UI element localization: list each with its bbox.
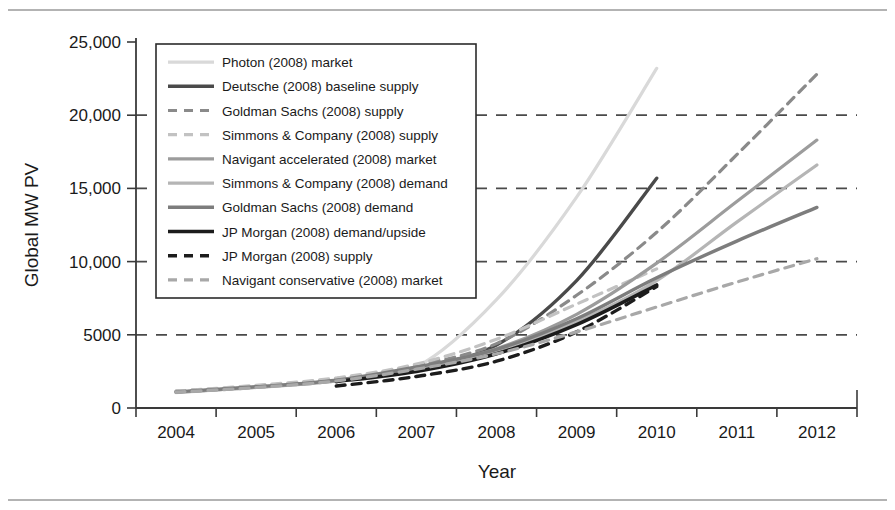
x-tick-label-2012: 2012: [798, 423, 836, 442]
x-tick-label-2007: 2007: [397, 423, 435, 442]
legend-label-2: Goldman Sachs (2008) supply: [222, 104, 404, 119]
y-tick-label-10000: 10,000: [69, 253, 121, 272]
x-tick-label-2004: 2004: [157, 423, 195, 442]
chart-legend: Photon (2008) marketDeutsche (2008) base…: [156, 44, 476, 298]
line-chart: 0500010,00015,00020,00025,00020042005200…: [0, 0, 895, 510]
legend-label-3: Simmons & Company (2008) supply: [222, 128, 438, 143]
x-axis-title: Year: [478, 461, 517, 482]
legend-label-0: Photon (2008) market: [222, 55, 353, 70]
y-tick-label-15000: 15,000: [69, 179, 121, 198]
y-tick-label-5000: 5000: [83, 326, 121, 345]
legend-label-1: Deutsche (2008) baseline supply: [222, 79, 419, 94]
legend-label-6: Goldman Sachs (2008) demand: [222, 200, 413, 215]
x-tick-label-2006: 2006: [317, 423, 355, 442]
y-tick-label-0: 0: [112, 399, 121, 418]
y-tick-label-20000: 20,000: [69, 106, 121, 125]
chart-figure: 0500010,00015,00020,00025,00020042005200…: [0, 0, 895, 510]
legend-label-7: JP Morgan (2008) demand/upside: [222, 225, 426, 240]
legend-label-9: Navigant conservative (2008) market: [222, 273, 443, 288]
x-tick-label-2010: 2010: [638, 423, 676, 442]
x-tick-label-2005: 2005: [237, 423, 275, 442]
x-tick-label-2008: 2008: [478, 423, 516, 442]
legend-label-8: JP Morgan (2008) supply: [222, 249, 373, 264]
legend-label-5: Simmons & Company (2008) demand: [222, 176, 448, 191]
y-axis-title: Global MW PV: [21, 162, 42, 287]
x-tick-label-2011: 2011: [719, 423, 756, 442]
y-tick-label-25000: 25,000: [69, 33, 121, 52]
x-tick-label-2009: 2009: [558, 423, 596, 442]
legend-label-4: Navigant accelerated (2008) market: [222, 152, 437, 167]
